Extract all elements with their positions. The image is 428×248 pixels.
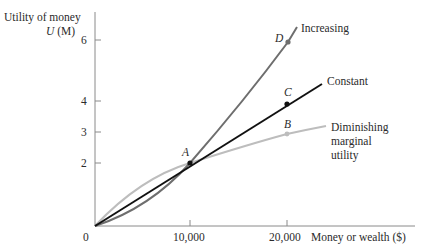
point-a [187, 160, 192, 165]
y-axis-label-line1: Utility of money [4, 11, 81, 24]
y-axis-label-line2: U (M) [46, 25, 75, 38]
point-label-b: B [284, 118, 291, 131]
y-tick-label-4: 4 [81, 95, 87, 108]
series-label-diminishing-3: utility [331, 149, 358, 162]
point-label-d: D [275, 32, 283, 45]
point-label-a: A [182, 146, 189, 159]
y-axis-unit: (M) [57, 25, 75, 37]
point-label-c: C [284, 86, 292, 99]
x-axis-label: Money or wealth ($) [311, 231, 406, 244]
point-c [284, 101, 289, 106]
origin-label: 0 [83, 231, 89, 244]
point-b [285, 132, 290, 137]
series-label-constant: Constant [327, 75, 368, 88]
y-tick-label-3: 3 [81, 126, 87, 139]
point-d [285, 39, 290, 44]
y-tick-label-2: 2 [81, 157, 87, 170]
series-increasing [95, 27, 297, 226]
x-tick-label-10000: 10,000 [173, 231, 205, 244]
series-label-increasing: Increasing [301, 22, 349, 35]
series-label-diminishing-1: Diminishing [331, 121, 389, 134]
y-axis-symbol: U [46, 25, 54, 37]
x-tick-label-20000: 20,000 [269, 231, 301, 244]
series-label-diminishing-2: marginal [331, 135, 372, 148]
y-tick-label-6: 6 [81, 34, 87, 47]
